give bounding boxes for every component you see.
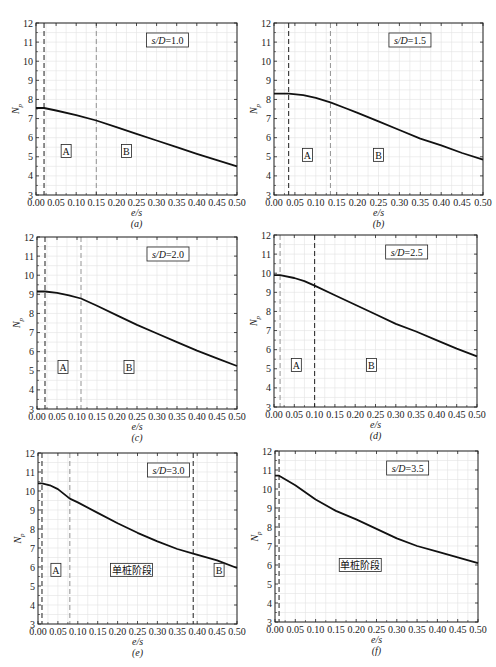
x-tick-label: 0.45: [453, 197, 471, 208]
y-axis-label: Np: [11, 317, 25, 329]
y-axis-label: Np: [10, 103, 24, 115]
x-tick-label: 0.05: [49, 626, 67, 637]
y-tick-label: 4: [266, 382, 271, 393]
x-tick-label: 0.45: [449, 624, 467, 635]
region-label: 单桩阶段: [340, 559, 380, 571]
sd-ratio-label: s/D=2.5: [391, 247, 423, 258]
y-tick-label: 7: [30, 543, 35, 554]
x-tick-label: 0.35: [412, 197, 430, 208]
x-tick-label: 0.20: [349, 197, 367, 208]
x-tick-label: 0.10: [306, 409, 324, 420]
region-label: A: [59, 362, 67, 373]
y-axis-label: Np: [248, 103, 262, 115]
x-axis-label: e/s: [373, 207, 384, 218]
x-tick-label: 0.50: [474, 197, 492, 208]
y-tick-label: 11: [261, 249, 271, 260]
x-tick-label: 0.45: [448, 409, 466, 420]
sd-ratio-label: s/D=1.0: [152, 35, 184, 46]
region-label: B: [123, 146, 130, 157]
y-tick-label: 8: [28, 94, 33, 105]
x-tick-label: 0.05: [48, 411, 66, 422]
grid: [38, 453, 237, 624]
x-tick-label: 0.20: [347, 624, 365, 635]
y-tick-label: 5: [29, 365, 34, 376]
x-tick-label: 0.50: [228, 626, 246, 637]
y-tick-label: 3: [29, 404, 34, 415]
region-label: B: [375, 150, 382, 161]
y-tick-label: 6: [28, 132, 33, 143]
y-tick-label: 10: [261, 56, 271, 67]
grid: [36, 23, 237, 195]
y-tick-label: 3: [30, 619, 35, 630]
y-tick-label: 5: [267, 579, 272, 590]
panel-caption: (d): [370, 430, 382, 442]
region-label: A: [304, 150, 312, 161]
x-tick-label: 0.05: [286, 197, 304, 208]
x-tick-label: 0.30: [148, 411, 166, 422]
x-tick-label: 0.45: [208, 411, 226, 422]
x-tick-label: 0.40: [432, 197, 450, 208]
x-axis-label: e/s: [131, 421, 142, 432]
x-axis-label: e/s: [132, 636, 143, 647]
x-tick-label: 0.40: [188, 411, 206, 422]
y-tick-label: 10: [262, 484, 272, 495]
x-tick-label: 0.15: [88, 197, 106, 208]
x-tick-label: 0.05: [286, 409, 304, 420]
y-tick-label: 3: [266, 190, 271, 201]
y-tick-label: 12: [23, 18, 33, 29]
x-tick-label: 0.35: [407, 409, 425, 420]
y-tick-label: 6: [266, 132, 271, 143]
x-tick-label: 0.30: [388, 624, 406, 635]
x-tick-label: 0.10: [68, 411, 86, 422]
x-tick-label: 0.15: [326, 409, 344, 420]
y-tick-label: 5: [266, 151, 271, 162]
y-tick-label: 11: [25, 467, 35, 478]
x-tick-label: 0.35: [408, 624, 426, 635]
y-tick-label: 9: [29, 289, 34, 300]
x-tick-label: 0.10: [307, 624, 325, 635]
x-tick-label: 0.05: [287, 624, 305, 635]
panel-d: 0.000.050.100.150.200.250.300.350.400.45…: [248, 230, 486, 443]
y-tick-label: 12: [24, 232, 34, 243]
y-tick-label: 5: [28, 151, 33, 162]
panel-e: 0.000.050.100.150.200.250.300.350.400.45…: [12, 448, 246, 660]
panel-caption: (a): [131, 218, 143, 230]
y-tick-label: 11: [262, 465, 272, 476]
y-tick-label: 11: [24, 251, 34, 262]
grid: [274, 235, 477, 407]
y-axis-label: Np: [12, 533, 26, 545]
panel-b: 0.000.050.100.150.200.250.300.350.400.45…: [248, 18, 492, 231]
region-label: 单桩阶段: [112, 564, 152, 576]
y-tick-label: 4: [30, 600, 35, 611]
region-label: B: [126, 362, 133, 373]
panel-caption: (c): [131, 432, 143, 444]
y-tick-label: 8: [29, 308, 34, 319]
y-tick-label: 12: [25, 448, 35, 459]
region-label: B: [216, 565, 223, 576]
x-axis-label: e/s: [131, 207, 142, 218]
y-tick-label: 3: [28, 190, 33, 201]
x-tick-label: 0.45: [208, 197, 226, 208]
x-tick-label: 0.50: [469, 624, 487, 635]
x-tick-label: 0.50: [468, 409, 486, 420]
y-tick-label: 4: [28, 170, 33, 181]
y-tick-label: 6: [29, 346, 34, 357]
y-tick-label: 4: [266, 170, 271, 181]
x-tick-label: 0.20: [108, 411, 126, 422]
y-tick-label: 6: [267, 560, 272, 571]
grid: [274, 23, 483, 195]
panel-a: 0.000.050.100.150.200.250.300.350.400.45…: [10, 18, 246, 231]
y-tick-label: 6: [30, 562, 35, 573]
x-tick-label: 0.15: [328, 197, 346, 208]
x-tick-label: 0.45: [208, 626, 226, 637]
panel-caption: (f): [372, 645, 382, 657]
panel-caption: (e): [132, 647, 144, 659]
panel-f: 0.000.050.100.150.200.250.300.350.400.45…: [249, 446, 487, 658]
y-tick-label: 11: [261, 37, 271, 48]
x-tick-label: 0.40: [429, 624, 447, 635]
y-tick-label: 8: [30, 524, 35, 535]
x-tick-label: 0.30: [391, 197, 409, 208]
y-axis-label: Np: [248, 315, 262, 327]
y-tick-label: 10: [24, 270, 34, 281]
y-tick-label: 12: [261, 230, 271, 241]
